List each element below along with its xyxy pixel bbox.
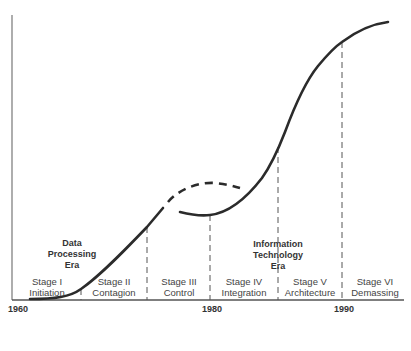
stage-2-name: Stage II [82, 276, 146, 287]
stage-1-label: Stage I Initiation [14, 276, 80, 298]
era-it-line1: Information [238, 239, 318, 250]
information-technology-curve [180, 22, 388, 215]
stage-6-name: Stage VI [343, 276, 407, 287]
era-it-line2: Technology [238, 250, 318, 261]
stage-3-label: Stage III Control [148, 276, 210, 298]
stage-5-title: Architecture [278, 287, 342, 298]
era-dp-line3: Era [42, 260, 102, 271]
stage-1-title: Initiation [14, 287, 80, 298]
era-it-line3: Era [238, 261, 318, 272]
stage-4-label: Stage IV Integration [211, 276, 277, 298]
year-1990: 1990 [334, 304, 354, 314]
stage-2-label: Stage II Contagion [82, 276, 146, 298]
stage-3-name: Stage III [148, 276, 210, 287]
stage-6-label: Stage VI Demassing [343, 276, 407, 298]
stage-1-name: Stage I [14, 276, 80, 287]
era-label-data-processing: Data Processing Era [42, 238, 102, 271]
era-dp-line1: Data [42, 238, 102, 249]
year-1960: 1960 [8, 304, 28, 314]
year-1980: 1980 [202, 304, 222, 314]
stage-5-name: Stage V [278, 276, 342, 287]
era-label-information-technology: Information Technology Era [238, 239, 318, 272]
stage-4-name: Stage IV [211, 276, 277, 287]
stage-3-title: Control [148, 287, 210, 298]
era-dp-line2: Processing [42, 249, 102, 260]
stage-2-title: Contagion [82, 287, 146, 298]
data-processing-extrapolation [168, 183, 240, 202]
stage-6-title: Demassing [343, 287, 407, 298]
stage-diagram [0, 0, 411, 351]
stage-5-label: Stage V Architecture [278, 276, 342, 298]
stage-4-title: Integration [211, 287, 277, 298]
